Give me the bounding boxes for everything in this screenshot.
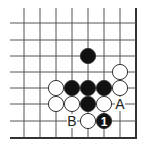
- marker-b: B: [67, 113, 76, 129]
- go-board-diagram: AB 1: [0, 0, 147, 151]
- black-stone: [96, 80, 111, 95]
- go-board-svg: AB 1: [0, 0, 147, 151]
- white-stone: [112, 64, 127, 79]
- white-stone: [48, 80, 63, 95]
- black-stone: [64, 80, 79, 95]
- white-stone: [80, 113, 95, 128]
- marker-a: A: [115, 96, 125, 112]
- white-stone: [64, 96, 79, 111]
- black-stone: [80, 80, 95, 95]
- stones-layer: 1: [48, 48, 127, 128]
- white-stone: [48, 96, 63, 111]
- white-stone: [112, 80, 127, 95]
- white-stone: [96, 96, 111, 111]
- move-number-label: 1: [101, 115, 108, 129]
- black-stone: [80, 48, 95, 63]
- black-stone: [80, 96, 95, 111]
